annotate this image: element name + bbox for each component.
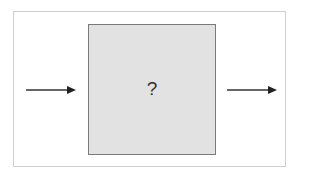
- black-box: ?: [88, 24, 216, 155]
- input-arrow-icon: [24, 84, 78, 96]
- output-arrow-icon: [225, 84, 279, 96]
- box-label: ?: [147, 79, 158, 98]
